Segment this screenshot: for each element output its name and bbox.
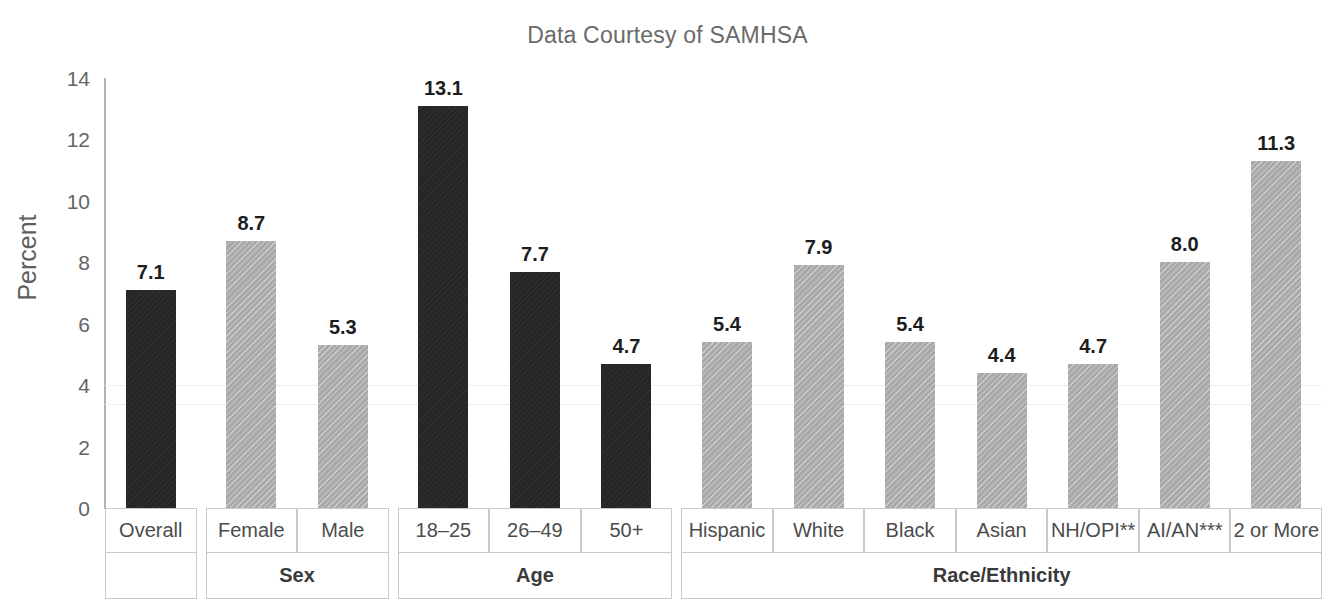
category-cell: 26–49 (489, 508, 581, 553)
y-axis-tick-labels: 14121086420 (42, 78, 90, 508)
y-tick-label: 14 (46, 68, 90, 89)
category-cell: 50+ (581, 508, 673, 553)
group-header-cell: Race/Ethnicity (681, 553, 1322, 599)
y-tick-label: 10 (46, 191, 90, 212)
bar-value-label: 8.0 (1145, 234, 1225, 254)
bar-value-label: 5.4 (687, 314, 767, 334)
bar-value-label: 7.1 (111, 262, 191, 282)
bar (1068, 364, 1118, 508)
bar-value-label: 5.4 (870, 314, 950, 334)
bar (702, 342, 752, 508)
bar (226, 241, 276, 508)
bar (418, 106, 468, 508)
group-header-cell: Age (398, 553, 673, 599)
bar (601, 364, 651, 508)
group-header-cell (105, 553, 197, 599)
chart-page: Data Courtesy of SAMHSA Percent 14121086… (0, 0, 1335, 615)
category-cell: Female (206, 508, 298, 553)
category-cell: 18–25 (398, 508, 490, 553)
bar (318, 345, 368, 508)
category-cell: White (773, 508, 865, 553)
bar-value-label: 7.9 (779, 237, 859, 257)
bar (794, 265, 844, 508)
chart-title: Data Courtesy of SAMHSA (0, 22, 1335, 49)
category-cell: Asian (956, 508, 1048, 553)
y-tick-label: 2 (46, 437, 90, 458)
bar-value-label: 4.7 (1053, 336, 1133, 356)
y-tick-label: 6 (46, 314, 90, 335)
bar (510, 272, 560, 509)
y-axis-line (104, 78, 106, 509)
category-cell: Overall (105, 508, 197, 553)
category-cell: AI/AN*** (1139, 508, 1231, 553)
bar-value-label: 4.4 (962, 345, 1042, 365)
category-cell: Male (297, 508, 389, 553)
y-tick-label: 0 (46, 498, 90, 519)
plot-area: 7.18.75.313.17.74.75.47.95.44.44.78.011.… (105, 78, 1322, 508)
x-axis-category-table: OverallFemaleMale18–2526–4950+HispanicWh… (105, 508, 1322, 601)
bar (126, 290, 176, 508)
bar-value-label: 7.7 (495, 244, 575, 264)
bar (885, 342, 935, 508)
bar-value-label: 8.7 (211, 213, 291, 233)
bar-value-label: 5.3 (303, 317, 383, 337)
bar-value-label: 4.7 (586, 336, 666, 356)
bar-value-label: 11.3 (1236, 133, 1316, 153)
bar (1160, 262, 1210, 508)
category-cell: 2 or More (1230, 508, 1322, 553)
category-cell: Hispanic (681, 508, 773, 553)
bar (977, 373, 1027, 508)
bar-value-label: 13.1 (403, 78, 483, 98)
y-tick-label: 4 (46, 375, 90, 396)
bar (1251, 161, 1301, 508)
y-tick-label: 8 (46, 252, 90, 273)
category-cell: Black (864, 508, 956, 553)
y-axis-label: Percent (13, 168, 42, 348)
category-cell: NH/OPI** (1047, 508, 1139, 553)
y-tick-label: 12 (46, 129, 90, 150)
group-header-cell: Sex (206, 553, 389, 599)
